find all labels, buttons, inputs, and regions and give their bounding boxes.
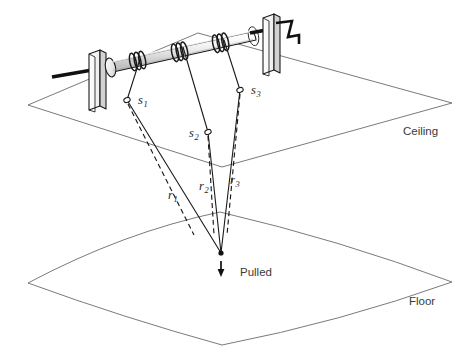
label-s3: s3: [251, 83, 261, 99]
figure-container: s1 s2 s3 r1 r2 r3 Pulled Ceiling Floor: [0, 0, 472, 361]
pull-direction-arrow: [218, 269, 225, 277]
winch-diagram: s1 s2 s3 r1 r2 r3 Pulled Ceiling Floor: [0, 0, 472, 361]
cable-r2-upper: [183, 47, 208, 132]
winch-drum: [104, 26, 261, 78]
label-r1: r1: [168, 188, 178, 204]
cable-r3-upper: [224, 40, 240, 90]
label-floor: Floor: [409, 295, 435, 307]
label-r3: r3: [230, 173, 240, 189]
label-pulled: Pulled: [240, 266, 272, 278]
dashed-drop-s1: [128, 104, 194, 235]
dashed-drop-s3: [227, 94, 240, 235]
reference-drop-lines: [128, 94, 240, 235]
floor-plane: [28, 212, 452, 345]
cable-segments-lower: [127, 90, 240, 253]
label-s2: s2: [189, 126, 199, 142]
label-r2: r2: [199, 179, 209, 195]
marker-s2: [204, 129, 212, 136]
pull-point-group: [218, 250, 225, 277]
marker-s1: [123, 97, 131, 104]
label-ceiling: Ceiling: [403, 125, 438, 137]
cable-r3-lower: [221, 90, 240, 253]
label-s1: s1: [138, 93, 148, 109]
dashed-drop-s2: [208, 136, 214, 235]
left-support-plate: [52, 50, 106, 112]
marker-s3: [236, 87, 244, 94]
right-support-plate: [250, 14, 280, 76]
pull-point-dot: [218, 250, 223, 255]
cable-r1-lower: [127, 100, 221, 253]
